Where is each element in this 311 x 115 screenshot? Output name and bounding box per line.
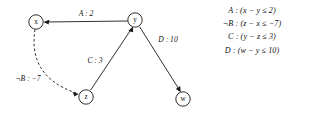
- edge-a-line: [46, 21, 128, 22]
- edge-a-arrowhead: [43, 20, 49, 25]
- edge-d-label: D : 10: [157, 35, 178, 44]
- node-z-label: z: [84, 93, 87, 101]
- node-w-label: w: [180, 95, 186, 103]
- constraint-legend: A : (x − y ≤ 2) ¬B : (z − x ≤ −7) C : (y…: [196, 4, 308, 57]
- node-w[interactable]: w: [176, 92, 190, 106]
- legend-entry-not-b: ¬B : (z − x ≤ −7): [196, 17, 308, 30]
- node-y[interactable]: y: [128, 13, 142, 27]
- figure-canvas: x y z w A : 2 ¬B : −7 C : 3 D : 10 A : (…: [0, 0, 311, 115]
- legend-entry-d: D : (w − y ≤ 10): [196, 44, 308, 57]
- node-x-label: x: [34, 18, 38, 26]
- edge-d-arrowhead: [176, 86, 181, 92]
- edge-a-group: [43, 20, 127, 25]
- edge-a-label: A : 2: [78, 9, 94, 18]
- legend-entry-c: C : (y − z ≤ 3): [196, 30, 308, 43]
- node-z[interactable]: z: [79, 90, 93, 104]
- node-x[interactable]: x: [29, 15, 43, 29]
- edge-c-label: C : 3: [87, 56, 102, 65]
- edge-not-b-group: [34, 29, 79, 96]
- node-y-label: y: [133, 16, 137, 24]
- edge-not-b-curve: [34, 29, 76, 93]
- legend-entry-a: A : (x − y ≤ 2): [196, 4, 308, 17]
- edge-not-b-label: ¬B : −7: [15, 74, 41, 83]
- edge-c-arrowhead: [128, 27, 133, 33]
